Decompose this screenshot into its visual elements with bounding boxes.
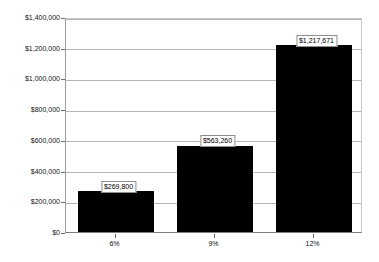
x-axis-tick-mark xyxy=(313,234,314,238)
y-axis-tick-label: $1,000,000 xyxy=(25,75,60,83)
bar-value-label: $1,217,671 xyxy=(296,35,337,47)
y-axis-tick-label: $0 xyxy=(52,229,60,237)
y-axis-tick-label: $200,000 xyxy=(31,198,60,206)
x-axis-tick-label: 9% xyxy=(184,240,244,248)
gridline xyxy=(66,19,361,20)
y-axis-tick-label: $800,000 xyxy=(31,106,60,114)
y-axis-tick-label: $1,400,000 xyxy=(25,14,60,22)
x-axis-tick-mark xyxy=(115,234,116,238)
plot-area xyxy=(65,18,362,233)
bar xyxy=(276,45,352,232)
bar xyxy=(177,146,253,233)
bar-chart: $1,400,000$1,200,000$1,000,000$800,000$6… xyxy=(0,0,379,262)
y-axis-tick-label: $600,000 xyxy=(31,137,60,145)
x-axis-tick-label: 12% xyxy=(283,240,343,248)
y-axis-tick-label: $1,200,000 xyxy=(25,45,60,53)
y-axis-tick-mark xyxy=(61,233,65,234)
bar-value-label: $563,260 xyxy=(200,135,235,147)
bar-value-label: $269,800 xyxy=(101,181,136,193)
x-axis-tick-label: 6% xyxy=(85,240,145,248)
x-axis-tick-mark xyxy=(214,234,215,238)
bar xyxy=(78,191,154,232)
y-axis-tick-label: $400,000 xyxy=(31,168,60,176)
